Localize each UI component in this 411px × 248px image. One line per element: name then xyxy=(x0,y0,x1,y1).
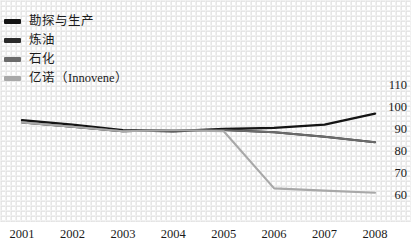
legend-swatch-icon xyxy=(4,57,21,62)
x-axis-tick-label: 2005 xyxy=(211,228,236,241)
y-axis-tick-label: 110 xyxy=(389,79,407,92)
y-axis-tick-label: 100 xyxy=(388,101,407,114)
x-axis-tick-label: 2002 xyxy=(60,228,85,241)
x-axis-tick-label: 2008 xyxy=(363,228,388,241)
series-line xyxy=(22,122,375,192)
x-axis-tick-label: 2003 xyxy=(110,228,135,241)
legend-swatch-icon xyxy=(4,19,21,24)
chart-legend: 勘探与生产炼油石化亿诺（Innovene） xyxy=(4,12,128,88)
legend-item: 勘探与生产 xyxy=(4,12,128,31)
legend-swatch-icon xyxy=(4,38,21,43)
series-line xyxy=(22,114,375,132)
legend-item: 炼油 xyxy=(4,31,128,50)
legend-item: 石化 xyxy=(4,50,128,69)
x-axis-tick-label: 2006 xyxy=(262,228,287,241)
legend-item-label: 炼油 xyxy=(29,34,55,47)
y-axis-tick-label: 80 xyxy=(395,145,408,158)
legend-item-label: 勘探与生产 xyxy=(29,15,94,28)
legend-swatch-icon xyxy=(4,76,21,81)
legend-item-label: 亿诺（Innovene） xyxy=(29,72,128,85)
legend-item: 亿诺（Innovene） xyxy=(4,69,128,88)
x-axis-tick-label: 2001 xyxy=(10,228,35,241)
x-axis: 20012002200320042005200620072008 xyxy=(0,222,411,248)
chart-screenshot: 勘探与生产炼油石化亿诺（Innovene） 11010090807060 200… xyxy=(0,0,411,248)
x-axis-tick-label: 2004 xyxy=(161,228,186,241)
y-axis-tick-label: 90 xyxy=(395,123,408,136)
x-axis-tick-label: 2007 xyxy=(312,228,337,241)
y-axis-tick-label: 70 xyxy=(395,167,408,180)
y-axis-tick-label: 60 xyxy=(395,189,408,202)
y-axis: 11010090807060 xyxy=(377,0,409,222)
legend-item-label: 石化 xyxy=(29,53,55,66)
